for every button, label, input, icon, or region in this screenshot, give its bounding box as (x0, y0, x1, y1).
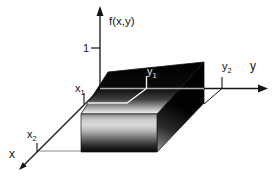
x-axis-label: x (9, 147, 15, 161)
y2-sub: 2 (228, 66, 232, 75)
x1-sub: 1 (81, 88, 85, 97)
one-tick-label: 1 (83, 42, 89, 54)
y1-sub: 1 (153, 71, 157, 80)
box-front-face (81, 114, 157, 152)
y-axis-label: y (250, 59, 256, 73)
f-axis-label: f(x,y) (109, 15, 135, 27)
x2-sub: 2 (33, 134, 37, 143)
figure-uniform-density-3d: f(x,y) 1 y1 y2 y x1 x2 x (0, 0, 272, 176)
density-plot-canvas: f(x,y) 1 y1 y2 y x1 x2 x (0, 0, 272, 176)
